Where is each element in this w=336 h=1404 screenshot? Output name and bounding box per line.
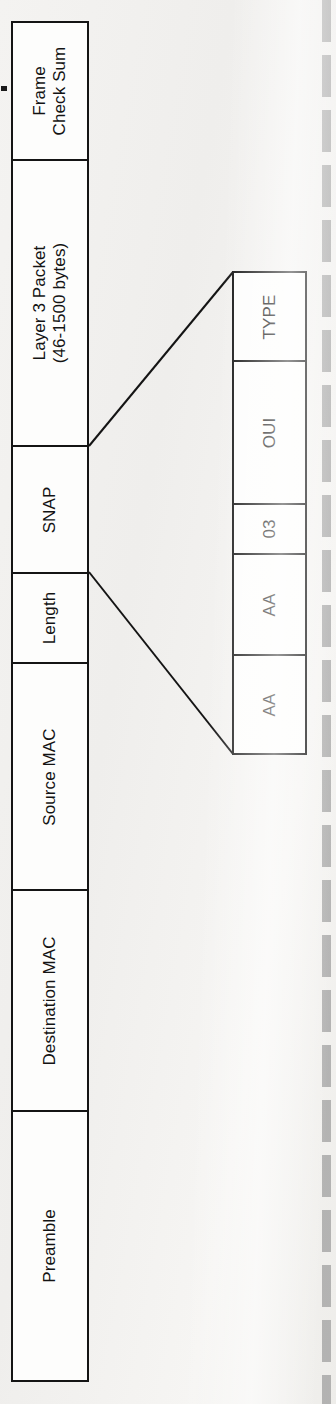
snap-detail-label: TYPE	[259, 294, 279, 339]
frame-field-label: Destination MAC	[40, 936, 60, 1065]
snap-detail-label-text: AA	[259, 593, 278, 616]
snap-detail-label: AA	[259, 693, 279, 716]
left-edge-tick-mark	[1, 86, 7, 91]
snap-detail-field-aa-first: AA	[232, 654, 307, 755]
frame-field-label: Source MAC	[40, 728, 60, 825]
snap-detail-label-text: 03	[259, 519, 278, 538]
frame-field-label: Length	[40, 592, 60, 645]
snap-detail-label: AA	[259, 593, 279, 616]
snap-detail-label: 03	[259, 519, 279, 538]
frame-field-label: Preamble	[40, 1209, 60, 1283]
frame-field-label: Layer 3 Packet (46-1500 bytes)	[30, 243, 70, 364]
snap-detail-field-oui: OUI	[232, 360, 307, 505]
frame-field-destination-mac: Destination MAC	[11, 889, 89, 1112]
snap-detail-field-aa-second: AA	[232, 553, 307, 656]
frame-field-frame-check-sum: Frame Check Sum	[11, 21, 89, 161]
frame-field-label-line1: Preamble	[40, 1209, 59, 1283]
leader-line-lower	[89, 572, 233, 754]
snap-detail-field-03: 03	[232, 503, 307, 555]
frame-field-preamble: Preamble	[11, 1110, 89, 1382]
frame-field-layer-3-packet: Layer 3 Packet (46-1500 bytes)	[11, 159, 89, 447]
frame-field-source-mac: Source MAC	[11, 662, 89, 891]
frame-field-label-line1: SNAP	[40, 486, 59, 533]
frame-field-label-line1: Source MAC	[40, 728, 59, 825]
frame-field-label: Frame Check Sum	[30, 47, 70, 136]
leader-line-upper	[89, 272, 233, 446]
frame-field-label-line2: (46-1500 bytes)	[50, 243, 69, 364]
frame-field-label-line1: Destination MAC	[40, 936, 59, 1065]
frame-field-label-line1: Layer 3 Packet	[30, 246, 49, 361]
frame-field-snap: SNAP	[11, 445, 89, 574]
snap-detail-label: OUI	[259, 417, 279, 448]
figure-canvas: Frame Check Sum Layer 3 Packet (46-1500 …	[0, 0, 336, 1404]
snap-detail-label-text: TYPE	[259, 294, 278, 339]
frame-field-label: SNAP	[40, 486, 60, 533]
frame-field-label-line1: Length	[40, 592, 59, 645]
snap-detail-label-text: OUI	[259, 417, 278, 448]
frame-field-length: Length	[11, 572, 89, 664]
frame-field-label-line1: Frame	[30, 66, 49, 116]
frame-field-label-line2: Check Sum	[50, 47, 69, 136]
page-margin-dash-strip	[322, 0, 331, 1404]
snap-detail-label-text: AA	[259, 693, 278, 716]
snap-detail-field-type: TYPE	[232, 271, 307, 362]
